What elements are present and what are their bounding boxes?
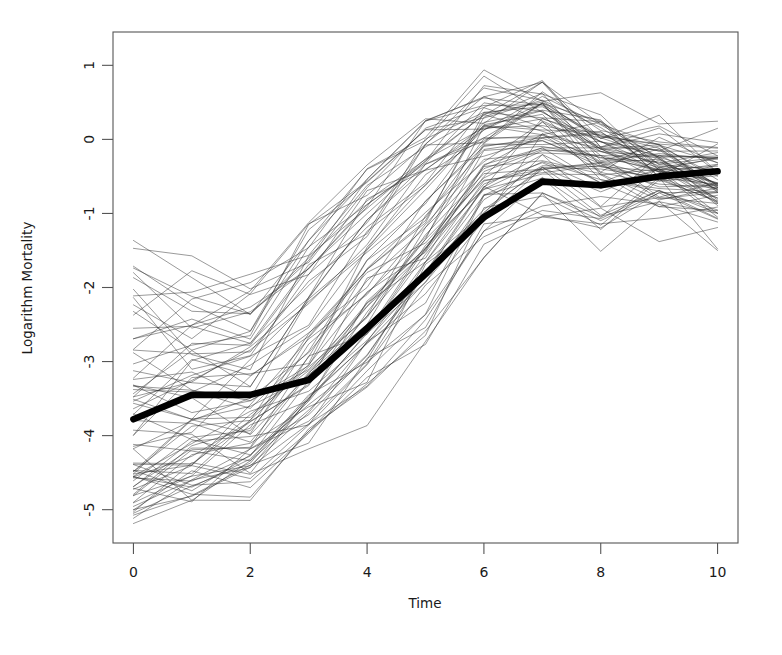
x-tick-label: 4	[363, 564, 372, 580]
x-tick-label: 6	[479, 564, 488, 580]
series-line	[133, 88, 717, 339]
series-line	[133, 70, 717, 349]
series-line	[133, 76, 717, 350]
y-tick-label: -5	[81, 503, 97, 517]
x-tick-label: 0	[129, 564, 138, 580]
y-tick-label: -2	[81, 281, 97, 295]
y-tick-label: 1	[81, 61, 97, 70]
y-tick-label: -4	[81, 429, 97, 443]
y-tick-label: -3	[81, 355, 97, 369]
figure-container: 0246810 -5-4-3-2-101 Time Logarithm Mort…	[0, 0, 782, 655]
y-axis-ticks: -5-4-3-2-101	[81, 61, 113, 517]
series-line	[133, 161, 717, 477]
series-lines-group	[133, 70, 717, 524]
series-line	[133, 141, 717, 448]
mean-trajectory-line	[133, 171, 717, 419]
series-line	[133, 163, 717, 486]
series-line	[133, 102, 717, 296]
x-axis-ticks: 0246810	[129, 543, 726, 580]
y-tick-label: -1	[81, 206, 97, 220]
y-tick-label: 0	[81, 135, 97, 144]
x-axis-title: Time	[407, 595, 441, 611]
y-axis-title: Logarithm Mortality	[19, 222, 35, 355]
x-tick-label: 2	[246, 564, 255, 580]
series-line	[133, 82, 717, 314]
chart-canvas: 0246810 -5-4-3-2-101 Time Logarithm Mort…	[0, 0, 782, 655]
series-line	[133, 208, 717, 510]
x-tick-label: 8	[596, 564, 605, 580]
x-tick-label: 10	[709, 564, 727, 580]
